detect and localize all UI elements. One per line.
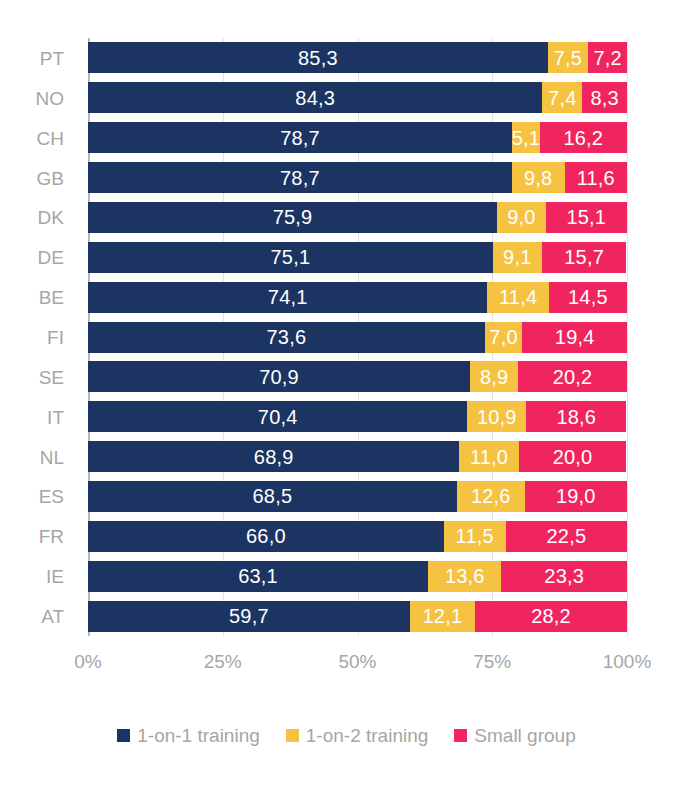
bar-row[interactable]: 75,19,115,7 — [88, 242, 627, 273]
bar-segment[interactable]: 16,2 — [540, 122, 627, 153]
category-label: PT — [40, 49, 64, 68]
bar-value-label: 12,1 — [423, 606, 463, 626]
bar-segment[interactable]: 7,2 — [588, 42, 627, 73]
bar-segment[interactable]: 19,4 — [522, 322, 627, 353]
bar-row[interactable]: 78,79,811,6 — [88, 162, 627, 193]
bar-row[interactable]: 85,37,57,2 — [88, 42, 627, 73]
category-label: IT — [47, 408, 64, 427]
bar-segment[interactable]: 12,6 — [457, 481, 525, 512]
legend-item[interactable]: Small group — [454, 726, 575, 745]
bar-value-label: 15,7 — [564, 247, 604, 267]
bar-row[interactable]: 59,712,128,2 — [88, 601, 627, 632]
value-axis-tick-label: 25% — [204, 652, 242, 671]
bar-segment[interactable]: 84,3 — [88, 82, 542, 113]
bar-row[interactable]: 66,011,522,5 — [88, 521, 627, 552]
bar-value-label: 5,1 — [512, 128, 540, 148]
bar-row[interactable]: 73,67,019,4 — [88, 322, 627, 353]
category-label: SE — [39, 368, 64, 387]
bar-segment[interactable]: 15,1 — [546, 202, 627, 233]
legend-label: 1-on-2 training — [306, 726, 429, 745]
category-label: GB — [37, 169, 64, 188]
bar-segment[interactable]: 20,2 — [518, 361, 627, 392]
bar-segment[interactable]: 85,3 — [88, 42, 548, 73]
bar-segment[interactable]: 19,0 — [525, 481, 627, 512]
bar-value-label: 9,0 — [507, 207, 535, 227]
bar-segment[interactable]: 28,2 — [475, 601, 627, 632]
bar-segment[interactable]: 9,0 — [497, 202, 546, 233]
bar-segment[interactable]: 13,6 — [428, 561, 501, 592]
bar-segment[interactable]: 8,3 — [582, 82, 627, 113]
bar-segment[interactable]: 18,6 — [526, 401, 626, 432]
category-label: FR — [39, 527, 64, 546]
bar-segment[interactable]: 70,9 — [88, 361, 470, 392]
bar-segment[interactable]: 20,0 — [519, 441, 627, 472]
bar-value-label: 73,6 — [266, 327, 306, 347]
bar-row[interactable]: 84,37,48,3 — [88, 82, 627, 113]
bar-segment[interactable]: 12,1 — [410, 601, 475, 632]
bar-value-label: 19,0 — [556, 486, 596, 506]
bar-segment[interactable]: 8,9 — [470, 361, 518, 392]
bar-segment[interactable]: 7,4 — [542, 82, 582, 113]
bar-segment[interactable]: 10,9 — [467, 401, 526, 432]
bar-value-label: 66,0 — [246, 526, 286, 546]
bar-row[interactable]: 74,111,414,5 — [88, 282, 627, 313]
bar-segment[interactable]: 7,0 — [485, 322, 523, 353]
bar-segment[interactable]: 78,7 — [88, 162, 512, 193]
bar-value-label: 18,6 — [556, 407, 596, 427]
category-label: DE — [38, 248, 64, 267]
bar-value-label: 7,0 — [489, 327, 517, 347]
bar-row[interactable]: 63,113,623,3 — [88, 561, 627, 592]
value-axis-ticks: 0%25%50%75%100% — [88, 652, 627, 682]
bar-value-label: 13,6 — [445, 566, 485, 586]
bar-segment[interactable]: 63,1 — [88, 561, 428, 592]
bar-segment[interactable]: 9,8 — [512, 162, 565, 193]
legend-swatch-icon — [117, 729, 130, 742]
bar-segment[interactable]: 15,7 — [542, 242, 627, 273]
bar-segment[interactable]: 68,5 — [88, 481, 457, 512]
bar-value-label: 11,6 — [577, 168, 615, 188]
legend-label: 1-on-1 training — [137, 726, 260, 745]
value-axis-tick-label: 0% — [74, 652, 101, 671]
bar-segment[interactable]: 11,0 — [459, 441, 518, 472]
bar-value-label: 8,9 — [480, 367, 508, 387]
value-axis-tick-label: 100% — [603, 652, 652, 671]
bar-segment[interactable]: 7,5 — [548, 42, 588, 73]
bar-segment[interactable]: 9,1 — [493, 242, 542, 273]
bar-value-label: 28,2 — [531, 606, 571, 626]
bar-value-label: 11,4 — [499, 287, 537, 307]
bar-segment[interactable]: 70,4 — [88, 401, 467, 432]
bar-row[interactable]: 70,410,918,6 — [88, 401, 627, 432]
bar-segment[interactable]: 22,5 — [506, 521, 627, 552]
bar-value-label: 84,3 — [295, 88, 335, 108]
bar-segment[interactable]: 75,9 — [88, 202, 497, 233]
bar-segment[interactable]: 11,5 — [444, 521, 506, 552]
bar-value-label: 75,1 — [271, 247, 311, 267]
bar-value-label: 22,5 — [546, 526, 586, 546]
category-label: DK — [38, 208, 64, 227]
bar-segment[interactable]: 73,6 — [88, 322, 485, 353]
bar-segment[interactable]: 11,6 — [565, 162, 627, 193]
category-label: AT — [41, 607, 64, 626]
bar-segment[interactable]: 68,9 — [88, 441, 459, 472]
legend-item[interactable]: 1-on-2 training — [286, 726, 429, 745]
bar-segment[interactable]: 75,1 — [88, 242, 493, 273]
bar-row[interactable]: 68,512,619,0 — [88, 481, 627, 512]
bar-row[interactable]: 75,99,015,1 — [88, 202, 627, 233]
bar-segment[interactable]: 23,3 — [501, 561, 627, 592]
bar-segment[interactable]: 5,1 — [512, 122, 539, 153]
bar-row[interactable]: 78,75,116,2 — [88, 122, 627, 153]
bar-value-label: 11,0 — [470, 447, 508, 467]
bar-segment[interactable]: 66,0 — [88, 521, 444, 552]
bar-row[interactable]: 68,911,020,0 — [88, 441, 627, 472]
bar-value-label: 78,7 — [280, 128, 320, 148]
bar-segment[interactable]: 59,7 — [88, 601, 410, 632]
legend-item[interactable]: 1-on-1 training — [117, 726, 260, 745]
bar-row[interactable]: 70,98,920,2 — [88, 361, 627, 392]
bar-segment[interactable]: 78,7 — [88, 122, 512, 153]
bar-value-label: 68,5 — [253, 486, 293, 506]
value-axis-tick-label: 50% — [338, 652, 376, 671]
category-label: ES — [39, 487, 64, 506]
bar-segment[interactable]: 11,4 — [487, 282, 548, 313]
bar-segment[interactable]: 74,1 — [88, 282, 487, 313]
bar-segment[interactable]: 14,5 — [549, 282, 627, 313]
